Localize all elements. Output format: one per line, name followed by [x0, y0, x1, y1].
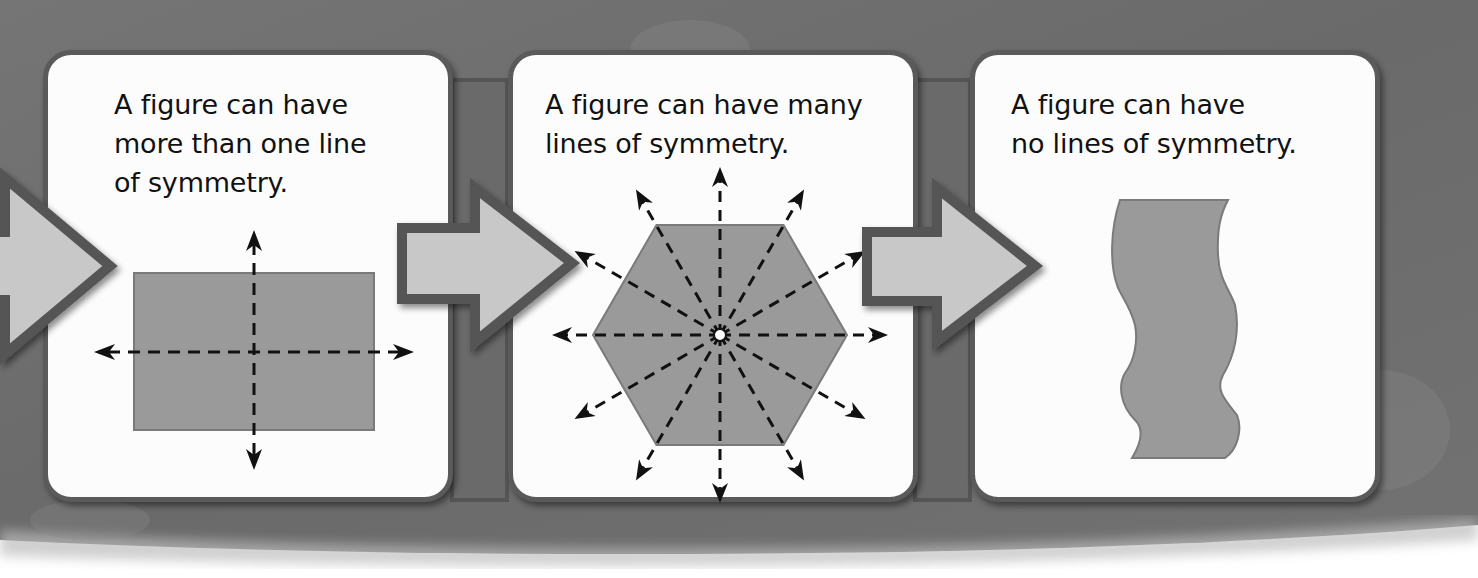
panel-more-than-one-line: A figure can have more than one line of …	[43, 50, 453, 502]
irregular-figure	[975, 55, 1385, 507]
center-point	[714, 329, 726, 341]
rectangle-figure	[48, 55, 458, 507]
hexagon-figure	[513, 55, 923, 507]
panel-no-lines: A figure can have no lines of symmetry.	[970, 50, 1380, 502]
panel-many-lines: A figure can have many lines of symmetry…	[508, 50, 918, 502]
wavy-shape	[1112, 200, 1239, 458]
